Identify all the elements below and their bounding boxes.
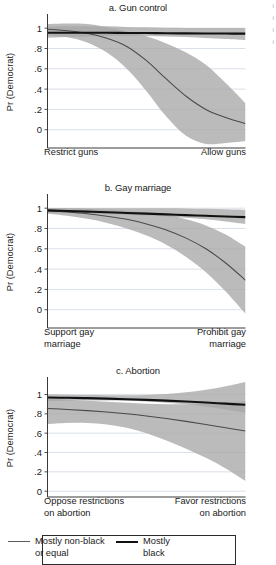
panel-c-xlabel-right: Favor restrictions on abortion xyxy=(175,496,246,519)
svg-text:0: 0 xyxy=(37,486,42,497)
svg-text:1: 1 xyxy=(37,23,42,34)
panel-b-xlabel-left: Support gay marriage xyxy=(44,327,94,350)
legend-item-mostly-black: Mostly black xyxy=(116,536,170,559)
panel-c-plot: 1.8.6.4.20Pr (Democrat) xyxy=(0,375,276,511)
svg-text:Pr (Democrat): Pr (Democrat) xyxy=(5,409,15,467)
panel-a-xlabel-left: Restrict guns xyxy=(44,147,98,159)
svg-text:.8: .8 xyxy=(34,408,42,419)
svg-text:.8: .8 xyxy=(34,43,42,54)
svg-text:.8: .8 xyxy=(34,223,42,234)
legend-item-mostly-non-black: Mostly non-black or equal xyxy=(8,536,105,559)
scan-bleed-artifact: ▌ xyxy=(273,16,275,20)
panel-gay-marriage: b. Gay marriage 1.8.6.4.20Pr (Democrat) … xyxy=(0,180,276,363)
scan-bleed-artifact: ▌ xyxy=(273,4,275,8)
scan-bleed-artifact: ▌ xyxy=(273,28,275,32)
legend-label-mostly-non-black: Mostly non-black or equal xyxy=(35,536,105,559)
svg-text:.2: .2 xyxy=(34,104,42,115)
legend: Mostly non-black or equal Mostly black xyxy=(0,531,276,565)
legend-label-mostly-black: Mostly black xyxy=(143,536,170,559)
panel-a-plot: 1.8.6.4.20Pr (Democrat) xyxy=(0,12,276,162)
panel-b-plot: 1.8.6.4.20Pr (Democrat) xyxy=(0,192,276,342)
svg-text:Pr (Democrat): Pr (Democrat) xyxy=(5,233,15,291)
svg-text:.4: .4 xyxy=(34,264,42,275)
svg-text:1: 1 xyxy=(37,203,42,214)
panel-c-xlabel-left: Oppose restrictions on abortion xyxy=(44,496,124,519)
svg-text:.6: .6 xyxy=(34,428,42,439)
svg-text:.2: .2 xyxy=(34,284,42,295)
svg-text:.6: .6 xyxy=(34,63,42,74)
panel-abortion: c. Abortion 1.8.6.4.20Pr (Democrat) Oppo… xyxy=(0,363,276,531)
svg-text:.4: .4 xyxy=(34,447,42,458)
figure-democrat-probability: a. Gun control 1.8.6.4.20Pr (Democrat) R… xyxy=(0,0,276,565)
panel-gun-control: a. Gun control 1.8.6.4.20Pr (Democrat) R… xyxy=(0,0,276,180)
panel-b-xlabel-right: Prohibit gay marriage xyxy=(197,327,246,350)
svg-text:0: 0 xyxy=(37,304,42,315)
svg-text:.2: .2 xyxy=(34,466,42,477)
legend-swatch-thick-line-icon xyxy=(116,541,138,543)
scan-bleed-artifact: ▌ xyxy=(273,40,275,44)
svg-text:.4: .4 xyxy=(34,84,42,95)
svg-text:.6: .6 xyxy=(34,243,42,254)
svg-text:0: 0 xyxy=(37,124,42,135)
legend-swatch-thin-line-icon xyxy=(8,541,30,542)
panel-a-xlabel-right: Allow guns xyxy=(201,147,246,159)
svg-text:Pr (Democrat): Pr (Democrat) xyxy=(5,53,15,111)
svg-text:1: 1 xyxy=(37,389,42,400)
